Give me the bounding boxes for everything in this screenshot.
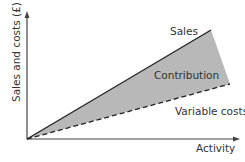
- contribution-area: [27, 30, 230, 139]
- contribution-label: Contribution: [154, 70, 219, 81]
- y-axis-label: Sales and costs (£): [11, 2, 22, 102]
- contribution-chart: [0, 0, 245, 162]
- x-axis-label: Activity: [196, 143, 235, 154]
- y-axis-arrow-icon: [25, 11, 30, 18]
- sales-label: Sales: [170, 26, 198, 37]
- x-axis-arrow-icon: [233, 137, 240, 142]
- variable-costs-label: Variable costs: [175, 106, 245, 117]
